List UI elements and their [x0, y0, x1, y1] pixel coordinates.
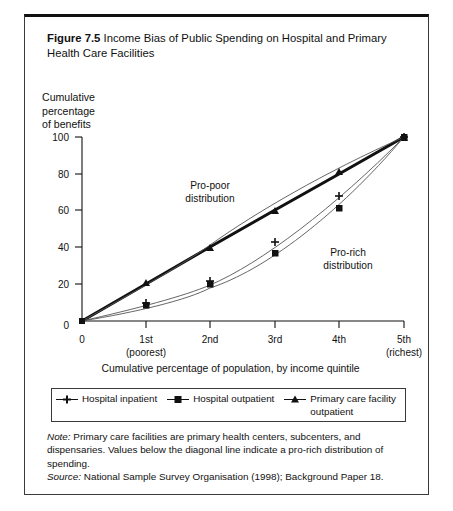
annotation-pro-rich-line2: distribution	[323, 260, 372, 271]
x-axis-ticks	[146, 321, 404, 328]
y-tick-label-0: 0	[63, 320, 69, 331]
x-tick-label-0: 0	[79, 334, 85, 345]
y-tick-label-60: 60	[58, 205, 70, 216]
x-tick-label-1st: 1st	[139, 334, 153, 345]
y-tick-label-40: 40	[58, 242, 70, 253]
legend-label-primary-care-facility-outpatient: Primary care facility outpatient	[310, 393, 395, 418]
chart-legend: Hospital inpatient Hospital outpatient P…	[51, 388, 406, 422]
legend-item-hospital-inpatient: Hospital inpatient	[56, 393, 157, 406]
source-text: National Sample Survey Organisation (199…	[81, 471, 383, 482]
note-label: Note:	[47, 431, 71, 442]
y-tick-label-80: 80	[58, 169, 70, 180]
annotation-pro-poor-line1: Pro-poor	[190, 180, 230, 191]
legend-item-hospital-outpatient: Hospital outpatient	[167, 393, 274, 406]
y-axis-ticks	[75, 137, 82, 284]
chart-svg: 100 80 60 40 20 0 0 1st (poorest) 2nd 3r…	[25, 17, 430, 377]
x-tick-label-4th: 4th	[332, 334, 346, 345]
x-tick-label-5th: 5th	[397, 334, 411, 345]
triangle-marker-icon	[284, 394, 306, 405]
annotation-pro-rich-line1: Pro-rich	[330, 247, 366, 258]
origin-marker	[79, 318, 85, 324]
plot-area: 100 80 60 40 20 0 0 1st (poorest) 2nd 3r…	[25, 17, 430, 498]
x-tick-label-2nd: 2nd	[202, 334, 219, 345]
series-hospital-outpatient-markers	[143, 134, 408, 309]
square-marker-icon	[167, 394, 189, 405]
source-label: Source:	[47, 471, 81, 482]
x-tick-label-3rd: 3rd	[268, 334, 282, 345]
y-tick-label-100: 100	[52, 132, 69, 143]
figure-footnote: Note: Primary care facilities are primar…	[47, 430, 411, 484]
x-tick-sublabel-poorest: (poorest)	[126, 347, 166, 358]
x-tick-sublabel-richest: (richest)	[386, 347, 422, 358]
figure-frame: Figure 7.5 Income Bias of Public Spendin…	[24, 14, 429, 495]
x-axis-title: Cumulative percentage of population, by …	[53, 363, 408, 374]
y-tick-label-20: 20	[58, 279, 70, 290]
legend-item-primary-care-facility-outpatient: Primary care facility outpatient	[284, 393, 395, 418]
annotation-pro-poor-line2: distribution	[185, 193, 234, 204]
legend-label-hospital-outpatient: Hospital outpatient	[193, 393, 274, 406]
legend-label-hospital-inpatient: Hospital inpatient	[82, 393, 157, 406]
note-text: Primary care facilities are primary heal…	[47, 431, 383, 469]
plus-marker-icon	[56, 394, 78, 405]
